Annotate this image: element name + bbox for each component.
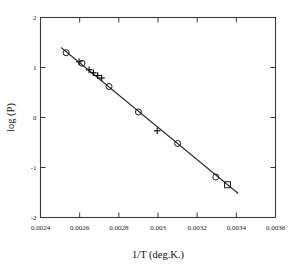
y-axis-title: log (P) (5, 103, 17, 132)
x-tick-label: 0.0036 (266, 224, 286, 232)
y-tick-label: -1 (31, 164, 37, 172)
plot-frame (41, 18, 276, 218)
y-tick-label: 2 (33, 14, 37, 22)
x-axis-title: 1/T (deg.K.) (132, 249, 185, 261)
y-tick-label: 0 (33, 114, 37, 122)
x-tick-label: 0.0028 (109, 224, 129, 232)
figure-container: 0.00240.00260.00280.0030.00320.00340.003… (0, 0, 292, 268)
y-tick-label: -2 (31, 214, 37, 222)
y-tick-label: 1 (33, 64, 37, 72)
x-tick-label: 0.0024 (31, 224, 51, 232)
x-tick-label: 0.0026 (70, 224, 90, 232)
data-point-circle (135, 109, 141, 115)
x-tick-label: 0.003 (150, 224, 166, 232)
x-tick-label: 0.0034 (227, 224, 247, 232)
scatter-plot: 0.00240.00260.00280.0030.00320.00340.003… (0, 0, 292, 268)
x-tick-label: 0.0032 (188, 224, 208, 232)
